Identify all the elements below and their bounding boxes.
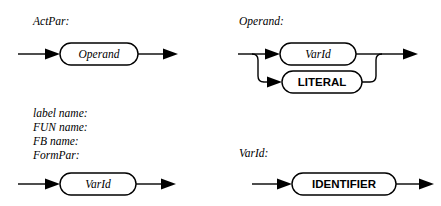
heading-fb-name: FB name: bbox=[33, 134, 88, 148]
merge-elbow-rail bbox=[362, 54, 382, 82]
diagram-actpar: Operand bbox=[14, 38, 194, 70]
diagram-varid: IDENTIFIER bbox=[250, 168, 440, 200]
node-label: VarId bbox=[85, 178, 111, 190]
arrowhead-icon bbox=[265, 49, 280, 60]
node-label: Operand bbox=[79, 48, 120, 61]
node-label: VarId bbox=[305, 48, 331, 60]
syntax-diagram-page: ActPar: Operand Operand: bbox=[0, 0, 441, 206]
heading-varid: VarId: bbox=[239, 146, 268, 160]
arrowhead-icon bbox=[45, 49, 60, 60]
heading-actpar: ActPar: bbox=[33, 14, 69, 28]
heading-label-name: label name: bbox=[33, 106, 88, 120]
heading-fun-name: FUN name: bbox=[33, 120, 88, 134]
node-label: LITERAL bbox=[298, 76, 347, 88]
heading-stack-names: label name: FUN name: FB name: FormPar: bbox=[33, 106, 88, 162]
arrowhead-icon bbox=[403, 49, 418, 60]
arrowhead-icon bbox=[267, 77, 282, 88]
arrowhead-icon bbox=[163, 49, 178, 60]
arrowhead-icon bbox=[45, 179, 60, 190]
split-elbow-rail bbox=[252, 54, 264, 82]
node-label: IDENTIFIER bbox=[312, 178, 377, 190]
diagram-names: VarId bbox=[14, 168, 194, 200]
heading-formpar: FormPar: bbox=[33, 148, 88, 162]
arrowhead-icon bbox=[161, 179, 176, 190]
arrowhead-icon bbox=[277, 179, 292, 190]
heading-operand: Operand: bbox=[239, 14, 284, 28]
diagram-operand: VarId LITERAL bbox=[236, 38, 436, 100]
arrowhead-icon bbox=[419, 179, 434, 190]
